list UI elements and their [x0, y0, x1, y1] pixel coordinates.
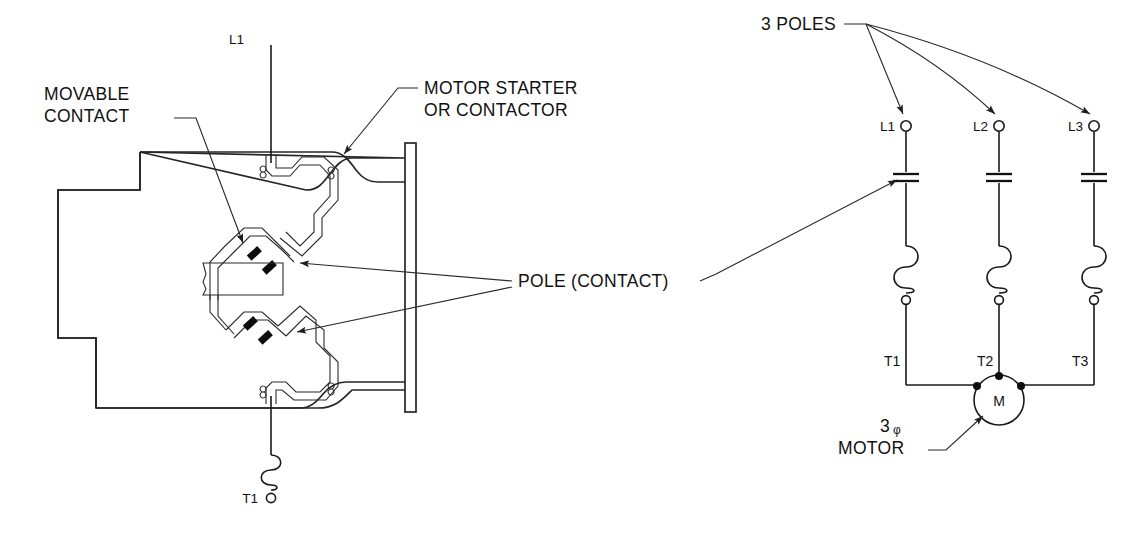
right-schematic-group: L1 T1 L2 T2 L3 T3 [700, 14, 1107, 458]
terminal-coil-upper-left [260, 166, 266, 178]
label-t3-right: T3 [1072, 353, 1089, 369]
contact-pad-upper-a [247, 246, 262, 261]
heater-terminal-l1 [902, 296, 911, 305]
motor-caption: 3 φ MOTOR [838, 416, 983, 458]
movable-arm-lower-inner [234, 320, 286, 338]
label-t1-left: T1 [242, 491, 258, 506]
movable-arm-lower-stem [210, 295, 234, 334]
contact-pad-lower-b [258, 330, 273, 345]
heater-terminal-l2 [995, 296, 1004, 305]
leader-three-poles-to-l3 [866, 24, 1090, 114]
label-movable-contact-line1: MOVABLE [44, 84, 129, 104]
line-terminal-l2 [994, 121, 1004, 131]
label-three-poles: 3 POLES [761, 14, 836, 34]
pole-branch-l2: L2 T2 [973, 119, 1012, 378]
leader-motor-caption [928, 416, 983, 450]
label-t2-right: T2 [977, 353, 994, 369]
pole-branch-l1: L1 T1 [880, 119, 919, 385]
motor-node-t3 [1017, 382, 1025, 390]
pole-branch-l3: L3 T3 [1068, 119, 1107, 385]
terminal-dot-t1-left [266, 493, 275, 502]
label-motor-starter-line2: OR CONTACTOR [424, 100, 568, 120]
motor-starter-diagram: L1 T1 MOVABLE CONTACT MOTOR STARTER OR C… [0, 0, 1145, 536]
label-l2-right: L2 [973, 119, 988, 134]
line-terminal-l3 [1089, 121, 1099, 131]
leader-three-poles-to-l1 [844, 24, 903, 114]
contact-pads-upper [247, 246, 277, 275]
label-l1-left: L1 [229, 32, 244, 47]
label-t1-right: T1 [884, 353, 901, 369]
motor-symbol: M [973, 372, 1025, 425]
leader-three-poles-to-l2 [866, 24, 995, 114]
terminal-coil-lower-left [260, 386, 266, 398]
heater-terminal-l3 [1090, 296, 1099, 305]
motor-letter: M [993, 393, 1005, 409]
movable-contact-arm-lower [210, 295, 286, 338]
motor-node-t2 [995, 372, 1003, 380]
motor-node-t1 [973, 382, 981, 390]
contact-pad-upper-b [262, 260, 277, 275]
overload-heater-l2 [987, 246, 1011, 293]
stationary-pole-upper-inner [276, 155, 338, 256]
motor-caption-phi: φ [893, 423, 901, 437]
movable-arm-upper-stem [210, 246, 232, 300]
stationary-pole-lower-outer [266, 306, 330, 404]
diagram-canvas: L1 T1 MOVABLE CONTACT MOTOR STARTER OR C… [0, 0, 1145, 536]
label-l3-right: L3 [1068, 119, 1083, 134]
overload-heater-t1 [261, 455, 281, 490]
motor-caption-word: MOTOR [838, 438, 904, 458]
line-terminal-l1 [901, 121, 911, 131]
enclosure-left-outline [58, 152, 140, 408]
label-motor-starter-line1: MOTOR STARTER [424, 78, 578, 98]
label-l1-right: L1 [880, 119, 895, 134]
leader-pole-contact-to-schematic [700, 180, 897, 281]
left-labels-group: L1 T1 MOVABLE CONTACT MOTOR STARTER OR C… [44, 32, 669, 506]
leader-movable-contact [174, 118, 243, 243]
label-movable-contact-line2: CONTACT [44, 106, 129, 126]
stationary-pole-upper-outer [266, 155, 330, 246]
overload-heater-l1 [894, 246, 918, 293]
overload-heater-l3 [1082, 246, 1106, 293]
contact-pad-lower-a [243, 316, 258, 331]
enclosure-bottom-edge [96, 382, 405, 408]
label-pole-contact: POLE (CONTACT) [518, 271, 669, 291]
mounting-rail [405, 143, 416, 412]
motor-caption-number: 3 [880, 416, 890, 436]
